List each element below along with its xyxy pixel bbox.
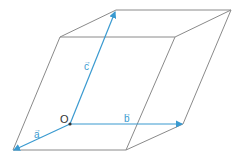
edges bbox=[13, 10, 231, 150]
vector-a-label: → a bbox=[34, 130, 40, 140]
arrow-over-a: → bbox=[34, 125, 41, 135]
vector-b-label: → b bbox=[124, 114, 130, 124]
arrow-over-c: → bbox=[84, 57, 91, 67]
arrow-over-b: → bbox=[124, 109, 131, 119]
origin-label: O bbox=[60, 113, 69, 125]
vector-c-label: → c bbox=[84, 62, 89, 72]
